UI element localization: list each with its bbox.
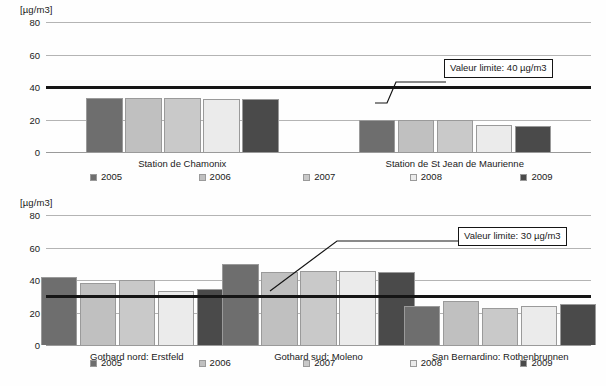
legend-label-2005: 2005: [101, 358, 122, 368]
legend-label-2006: 2006: [210, 172, 231, 182]
bar-2008-group-1: [476, 125, 513, 152]
legend-label-2007: 2007: [314, 358, 335, 368]
bar-2005-group-0: [41, 277, 78, 345]
bar-2007-group-0: [119, 280, 156, 345]
legend-label-2009: 2009: [531, 358, 552, 368]
bar-2009-group-1: [515, 126, 552, 152]
legend-swatch-icon-2006: [199, 174, 206, 181]
legend-top: 20052006200720082009: [46, 172, 591, 182]
legend-swatch-icon-2005: [90, 360, 97, 367]
bar-2009-group-0: [242, 99, 279, 152]
y-tick-label-0: 0: [35, 147, 40, 158]
legend-item-2009[interactable]: 2009: [480, 358, 591, 368]
bar-2007-group-0: [164, 98, 201, 152]
callout-leader-top: [370, 70, 455, 106]
gridline-0: 0: [46, 345, 591, 346]
y-tick-label-40: 40: [29, 82, 40, 93]
legend-label-2008: 2008: [421, 358, 442, 368]
legend-item-2008[interactable]: 2008: [374, 358, 481, 368]
legend-label-2005: 2005: [101, 172, 122, 182]
legend-swatch-icon-2009: [520, 360, 527, 367]
bar-2006-group-0: [80, 283, 117, 345]
bar-2005-group-0: [86, 98, 123, 152]
bar-2009-group-2: [560, 304, 597, 345]
bar-2008-group-0: [158, 291, 195, 345]
bar-2006-group-2: [443, 301, 480, 345]
y-axis-unit-label-bottom: [µg/m3]: [20, 197, 53, 208]
y-tick-label-80: 80: [29, 210, 40, 221]
bar-2007-group-2: [482, 308, 519, 345]
y-tick-label-60: 60: [29, 49, 40, 60]
bar-2005-group-1: [359, 120, 396, 153]
bar-2006-group-1: [398, 120, 435, 153]
legend-swatch-icon-2007: [303, 174, 310, 181]
legend-swatch-icon-2005: [90, 174, 97, 181]
bar-2005-group-2: [404, 306, 441, 345]
legend-item-2007[interactable]: 2007: [269, 172, 374, 182]
bar-2005-group-1: [222, 264, 259, 345]
limit-line-bottom: [46, 295, 591, 298]
legend-label-2008: 2008: [421, 172, 442, 182]
legend-swatch-icon-2009: [520, 174, 527, 181]
legend-label-2006: 2006: [210, 358, 231, 368]
y-axis-unit-label-top: [µg/m3]: [20, 4, 53, 15]
legend-item-2006[interactable]: 2006: [161, 358, 270, 368]
callout-leader-bottom: [265, 233, 465, 295]
y-tick-label-60: 60: [29, 242, 40, 253]
y-tick-label-40: 40: [29, 275, 40, 286]
legend-swatch-icon-2006: [199, 360, 206, 367]
bar-2008-group-0: [203, 99, 240, 152]
limit-annotation-top: Valeur limite: 40 µg/m3: [444, 59, 553, 78]
legend-item-2005[interactable]: 2005: [46, 172, 161, 182]
legend-item-2005[interactable]: 2005: [46, 358, 161, 368]
legend-item-2007[interactable]: 2007: [269, 358, 374, 368]
legend-item-2006[interactable]: 2006: [161, 172, 270, 182]
limit-annotation-bottom: Valeur limite: 30 µg/m3: [458, 227, 567, 246]
limit-line-top: [46, 86, 591, 89]
bar-2007-group-1: [437, 120, 474, 153]
y-tick-label-20: 20: [29, 114, 40, 125]
gridline-0: 0: [46, 152, 591, 153]
group-label-1: Station de St Jean de Maurienne: [386, 158, 524, 169]
group-label-0: Station de Chamonix: [138, 158, 226, 169]
y-tick-label-80: 80: [29, 17, 40, 28]
bar-2008-group-2: [521, 306, 558, 345]
legend-label-2007: 2007: [314, 172, 335, 182]
legend-item-2008[interactable]: 2008: [374, 172, 481, 182]
legend-label-2009: 2009: [531, 172, 552, 182]
legend-item-2009[interactable]: 2009: [480, 172, 591, 182]
bar-2006-group-0: [125, 98, 162, 152]
y-tick-label-0: 0: [35, 340, 40, 351]
plot-area-top: 020406080 Station de ChamonixStation de …: [46, 22, 591, 152]
legend-swatch-icon-2008: [410, 360, 417, 367]
y-tick-label-20: 20: [29, 307, 40, 318]
legend-swatch-icon-2008: [410, 174, 417, 181]
legend-bottom: 20052006200720082009: [46, 358, 591, 368]
chart-top: [µg/m3] 020406080 Station de ChamonixSta…: [0, 0, 606, 193]
chart-bottom: [µg/m3] 020406080 Gothard nord: Erstfeld…: [0, 193, 606, 386]
chart-page: [µg/m3] 020406080 Station de ChamonixSta…: [0, 0, 606, 386]
legend-swatch-icon-2007: [303, 360, 310, 367]
